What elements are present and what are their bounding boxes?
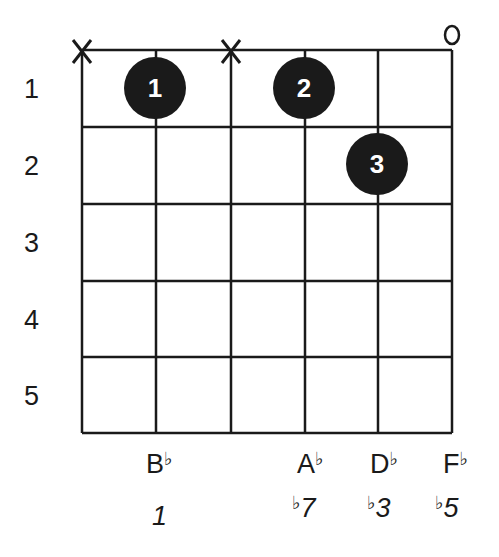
finger-dot-1: 1 — [124, 57, 186, 119]
chord-diagram: 1 2 3 4 5 1 2 3 B♭ A♭ D♭ F♭ 1 — [0, 0, 499, 557]
open-string-6-icon — [445, 26, 459, 44]
note-names: B♭ A♭ D♭ F♭ — [146, 448, 468, 479]
interval-string-2: 1 — [152, 501, 167, 531]
finger-dot-2: 2 — [273, 57, 335, 119]
interval-string-6: ♭5 — [435, 492, 460, 523]
finger-number: 2 — [297, 73, 311, 103]
note-string-2: B♭ — [146, 448, 173, 479]
finger-number: 3 — [370, 149, 384, 179]
fret-number-5: 5 — [24, 381, 39, 411]
fret-number-1: 1 — [24, 74, 39, 104]
finger-dot-3: 3 — [346, 133, 408, 195]
fret-number-4: 4 — [24, 305, 39, 335]
fret-numbers: 1 2 3 4 5 — [24, 74, 39, 411]
fret-number-2: 2 — [24, 151, 39, 181]
note-string-6: F♭ — [443, 448, 468, 479]
interval-labels: 1 ♭7 ♭3 ♭5 — [152, 492, 460, 531]
finger-number: 1 — [148, 73, 162, 103]
interval-string-5: ♭3 — [367, 492, 391, 523]
fret-number-3: 3 — [24, 228, 39, 258]
string-markers — [73, 26, 459, 63]
note-string-5: D♭ — [370, 448, 398, 479]
interval-string-4: ♭7 — [292, 492, 317, 523]
note-string-4: A♭ — [297, 448, 324, 479]
